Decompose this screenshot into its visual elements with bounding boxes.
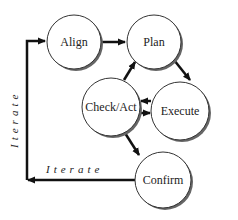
- node-confirm: Confirm: [135, 152, 193, 210]
- iterate-label-horizontal: Iterate: [45, 163, 103, 175]
- node-execute: Execute: [151, 82, 211, 142]
- edge-loop-align: [27, 41, 45, 180]
- node-align: Align: [47, 15, 103, 71]
- edge-plan-execute: [174, 60, 190, 80]
- iterate-label-vertical: Iterate: [8, 91, 20, 149]
- node-check-act: Check/Act: [82, 78, 142, 138]
- node-label-plan: Plan: [143, 35, 164, 49]
- node-label-confirm: Confirm: [143, 173, 184, 187]
- node-label-check-act: Check/Act: [85, 100, 137, 114]
- pdca-cycle-diagram: Align Plan Check/Act Execute Confirm Ite…: [0, 0, 238, 220]
- node-label-execute: Execute: [161, 104, 200, 118]
- node-label-align: Align: [60, 35, 87, 49]
- edge-checkact-confirm: [125, 133, 139, 155]
- edge-checkact-plan: [124, 62, 135, 80]
